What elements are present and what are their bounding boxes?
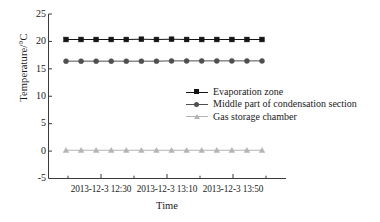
legend-item-evaporation-zone: Evaporation zone — [186, 86, 357, 98]
legend-marker-square-icon — [186, 86, 208, 98]
legend-label-1: Middle part of condensation section — [213, 98, 357, 110]
y-tick-label-0: 0 — [12, 146, 46, 156]
y-tick-label--5: -5 — [12, 173, 46, 183]
x-axis-title: Time — [48, 200, 286, 211]
y-axis-ticks — [49, 14, 53, 179]
temperature-vs-time-chart: 25 20 15 10 5 0 -5 2013-12-3 12:30 2013-… — [0, 0, 380, 222]
series-evaporation-zone — [64, 37, 265, 42]
legend-item-middle-part-of-condensation-section: Middle part of condensation section — [186, 98, 357, 110]
x-tick-label-1: 2013-12-3 13:10 — [137, 184, 198, 194]
legend-marker-triangle-icon — [186, 111, 208, 123]
legend-item-gas-storage-chamber: Gas storage chamber — [186, 111, 357, 123]
series-gas-storage-chamber — [63, 147, 265, 152]
x-tick-label-0: 2013-12-3 12:30 — [71, 184, 132, 194]
chart-legend: Evaporation zone Middle part of condensa… — [186, 86, 357, 123]
x-axis-ticks — [68, 174, 266, 179]
legend-label-0: Evaporation zone — [213, 86, 283, 98]
legend-label-2: Gas storage chamber — [213, 111, 297, 123]
y-axis-title: Temperature/°C — [18, 8, 29, 128]
series-middle-part-of-condensation-section — [64, 58, 265, 63]
x-tick-label-2: 2013-12-3 13:50 — [203, 184, 264, 194]
legend-marker-circle-icon — [186, 99, 208, 111]
